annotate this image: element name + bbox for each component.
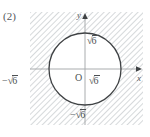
part-number-label: (2) — [3, 10, 16, 22]
x-intercept-negative-label: −√6 — [2, 75, 18, 86]
y-intercept-negative-label: −√6 — [70, 109, 86, 120]
radicand: 6 — [94, 75, 100, 86]
radical-expression: √6 — [89, 75, 100, 86]
radical-expression: −√6 — [70, 109, 86, 120]
radicand: 6 — [80, 109, 86, 120]
radical-expression: √6 — [87, 35, 98, 46]
radicand: 6 — [92, 35, 98, 46]
figure-container: (2) — [0, 0, 150, 137]
x-intercept-positive-label: √6 — [89, 75, 100, 86]
radical-expression: −√6 — [2, 75, 18, 86]
origin-label: O — [75, 73, 82, 83]
x-axis-label: x — [137, 74, 141, 83]
plot-graphics — [30, 12, 143, 125]
radicand: 6 — [12, 75, 18, 86]
coordinate-plot-area: y x O √6 −√6 √6 −√6 — [30, 12, 143, 125]
y-intercept-positive-label: √6 — [87, 35, 98, 46]
y-axis-label: y — [77, 11, 81, 20]
